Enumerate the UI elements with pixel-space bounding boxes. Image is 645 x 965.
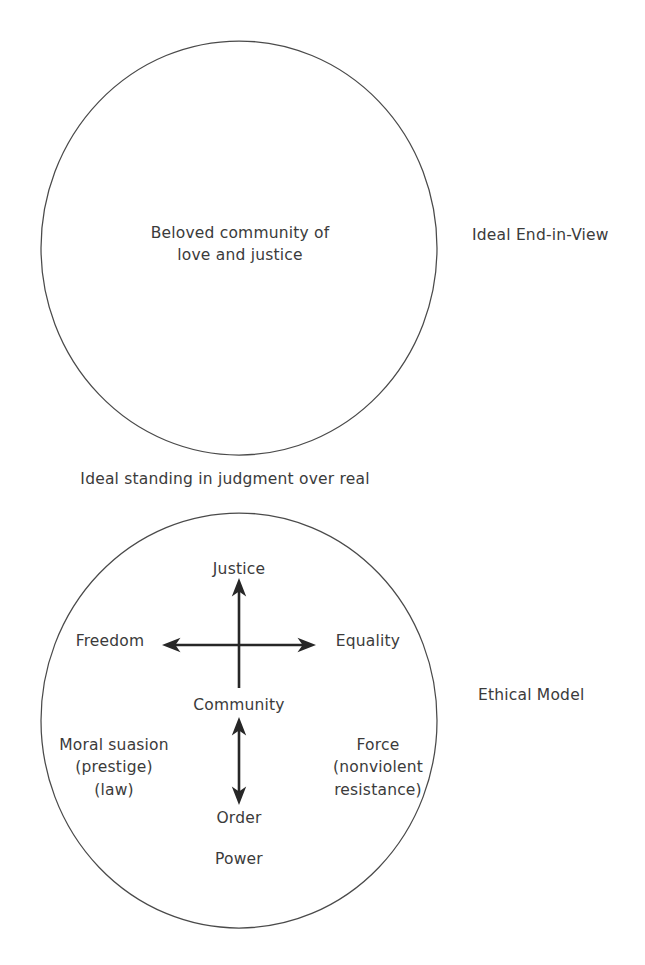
axis-label-freedom: Freedom	[60, 630, 160, 652]
label-force: Force (nonviolent resistance)	[312, 734, 444, 801]
label-power: Power	[194, 848, 284, 870]
axis-label-order: Order	[194, 807, 284, 829]
community-order-arrow	[232, 717, 246, 805]
justice-arrow	[232, 578, 246, 688]
ideal-end-in-view-label: Ideal End-in-View	[472, 224, 637, 246]
axis-label-equality: Equality	[318, 630, 418, 652]
ideal-standing-in-judgment-caption: Ideal standing in judgment over real	[60, 468, 390, 490]
diagram-page: Beloved community of love and justice Id…	[0, 0, 645, 965]
beloved-community-text: Beloved community of love and justice	[120, 222, 360, 267]
ethical-model-label: Ethical Model	[478, 684, 638, 706]
axis-label-justice: Justice	[179, 558, 299, 580]
label-moral-suasion: Moral suasion (prestige) (law)	[48, 734, 180, 801]
axis-label-community: Community	[179, 694, 299, 716]
